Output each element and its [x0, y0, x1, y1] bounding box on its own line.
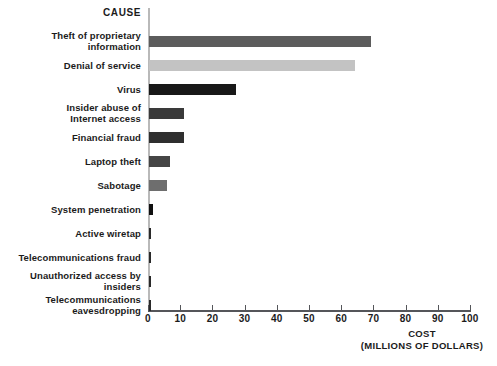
bar-category-label-line1: System penetration	[8, 204, 141, 215]
bar	[149, 132, 184, 143]
bar	[149, 252, 151, 263]
chart-row: Denial of service	[0, 53, 497, 77]
x-axis-tick	[180, 305, 181, 312]
chart-row: Theft of proprietaryinformation	[0, 29, 497, 53]
bar	[149, 60, 355, 71]
x-axis-tick	[277, 305, 278, 312]
bar	[149, 276, 151, 287]
chart-row: Virus	[0, 77, 497, 101]
bar-category-label: Laptop theft	[8, 156, 141, 167]
bar-category-label: System penetration	[8, 204, 141, 215]
chart-row: Financial fraud	[0, 125, 497, 149]
x-axis-tick-label: 100	[450, 313, 490, 324]
bar-category-label-line2: Internet access	[8, 113, 141, 124]
bar-category-label-line1: Virus	[8, 84, 141, 95]
bar-category-label-line1: Denial of service	[8, 60, 141, 71]
x-axis-tick	[309, 305, 310, 312]
bar-category-label: Telecommunications fraud	[8, 252, 141, 263]
bar-category-label: Denial of service	[8, 60, 141, 71]
bar	[149, 180, 167, 191]
bar-category-label: Theft of proprietaryinformation	[8, 30, 141, 52]
x-axis-tick	[212, 305, 213, 312]
x-axis-tick	[148, 305, 149, 312]
bar-category-label: Financial fraud	[8, 132, 141, 143]
bar-category-label-line1: Active wiretap	[8, 228, 141, 239]
bar-category-label: Unauthorized access byinsiders	[8, 270, 141, 292]
x-axis-tick	[341, 305, 342, 312]
chart-row: Insider abuse ofInternet access	[0, 101, 497, 125]
x-axis-caption-line1: COST	[352, 328, 492, 340]
x-axis-tick	[438, 305, 439, 312]
y-axis-title: CAUSE	[0, 7, 141, 18]
chart-row: Laptop theft	[0, 149, 497, 173]
bar-category-label: Virus	[8, 84, 141, 95]
chart-row: System penetration	[0, 197, 497, 221]
bar-category-label: Telecommunicationseavesdropping	[8, 294, 141, 316]
x-axis-tick	[373, 305, 374, 312]
bar	[149, 300, 151, 311]
bar-category-label-line1: Unauthorized access by	[8, 270, 141, 281]
chart-row: Telecommunications fraud	[0, 245, 497, 269]
bar-category-label-line2: information	[8, 41, 141, 52]
bar-category-label: Active wiretap	[8, 228, 141, 239]
x-axis-tick	[470, 305, 471, 312]
bar	[149, 84, 236, 95]
x-axis-tick	[406, 305, 407, 312]
bar-category-label-line1: Laptop theft	[8, 156, 141, 167]
bar-category-label-line1: Insider abuse of	[8, 102, 141, 113]
bar-chart-plot-area: CAUSE Theft of proprietaryinformationDen…	[0, 0, 497, 366]
bar	[149, 156, 170, 167]
bar	[149, 36, 371, 47]
bar	[149, 204, 153, 215]
bar-category-label-line1: Sabotage	[8, 180, 141, 191]
bar-category-label-line2: eavesdropping	[8, 305, 141, 316]
bar	[149, 228, 151, 239]
bar-category-label-line1: Theft of proprietary	[8, 30, 141, 41]
chart-row: Active wiretap	[0, 221, 497, 245]
bar-category-label-line1: Financial fraud	[8, 132, 141, 143]
x-axis-caption-line2: (MILLIONS OF DOLLARS)	[352, 340, 492, 352]
bar-category-label-line1: Telecommunications	[8, 294, 141, 305]
bar	[149, 108, 184, 119]
x-axis-caption: COST (MILLIONS OF DOLLARS)	[352, 328, 492, 352]
bar-category-label: Sabotage	[8, 180, 141, 191]
chart-row: Sabotage	[0, 173, 497, 197]
x-axis-tick	[245, 305, 246, 312]
chart-row: Unauthorized access byinsiders	[0, 269, 497, 293]
chart-page: CAUSE Theft of proprietaryinformationDen…	[0, 0, 497, 366]
bar-category-label-line2: insiders	[8, 281, 141, 292]
bar-category-label-line1: Telecommunications fraud	[8, 252, 141, 263]
bar-category-label: Insider abuse ofInternet access	[8, 102, 141, 124]
